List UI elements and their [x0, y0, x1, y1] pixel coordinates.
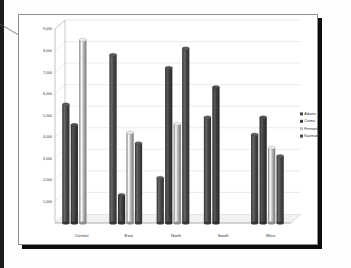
gridline-depth-edge: [55, 85, 65, 94]
y-axis-tick-label: 5,000: [43, 114, 52, 118]
bar-body[interactable]: [204, 117, 211, 223]
y-axis-tick-label: 2,000: [43, 178, 52, 182]
bar-top-cap: [118, 193, 125, 196]
legend-label[interactable]: Kazmarek: [304, 134, 319, 138]
bar-body[interactable]: [79, 40, 86, 223]
bar-top-cap: [79, 38, 86, 41]
legend-swatch: [300, 120, 303, 123]
bar[interactable]: [268, 146, 275, 225]
bar[interactable]: [174, 122, 181, 224]
bar[interactable]: [135, 142, 142, 225]
bar-bottom-cap: [204, 221, 211, 224]
y-axis-tick-label: 3,000: [43, 157, 52, 161]
bar-top-cap: [251, 133, 258, 136]
bar[interactable]: [165, 66, 172, 224]
y-axis-top-edge: [55, 20, 65, 29]
chart-panel[interactable]: 1,0002,0003,0004,0005,0006,0007,0008,000…: [18, 14, 318, 245]
bar-bottom-cap: [118, 221, 125, 224]
legend-label[interactable]: Fernandez: [304, 127, 319, 131]
bar-body[interactable]: [260, 117, 267, 223]
bar-body[interactable]: [118, 195, 125, 223]
bar-top-cap: [212, 86, 219, 89]
desktop-background: 1,0002,0003,0004,0005,0006,0007,0008,000…: [0, 0, 351, 268]
bar-body[interactable]: [268, 148, 275, 223]
bar-top-cap: [165, 66, 172, 69]
bar-top-cap: [277, 155, 284, 158]
bar-bottom-cap: [135, 221, 142, 224]
bar-bottom-cap: [268, 221, 275, 224]
bar-body[interactable]: [212, 87, 219, 223]
bar-body[interactable]: [71, 125, 78, 223]
bar-top-cap: [71, 123, 78, 126]
bar-top-cap: [204, 116, 211, 119]
legend-label[interactable]: Adams: [304, 112, 316, 116]
bar-top-cap: [268, 146, 275, 149]
y-axis-tick-label: 1,000: [43, 200, 52, 204]
bar-bottom-cap: [126, 221, 133, 224]
bar[interactable]: [109, 53, 116, 224]
x-axis-tick-label: West: [266, 233, 276, 238]
bar[interactable]: [182, 47, 189, 225]
y-axis-tick-label: 4,000: [43, 135, 52, 139]
gridline-depth-edge: [55, 42, 65, 51]
bar-top-cap: [182, 47, 189, 50]
bar[interactable]: [62, 103, 69, 225]
bar[interactable]: [212, 86, 219, 225]
bar[interactable]: [251, 133, 258, 225]
bar-bottom-cap: [212, 221, 219, 224]
bar-bottom-cap: [174, 221, 181, 224]
bar-body[interactable]: [182, 48, 189, 223]
bar[interactable]: [71, 123, 78, 224]
bar-top-cap: [157, 176, 164, 179]
bar-top-cap: [62, 103, 69, 106]
bar-body[interactable]: [126, 132, 133, 223]
y-axis-tick-label: 7,000: [43, 71, 52, 75]
x-axis-tick-label: East: [125, 233, 134, 238]
bar[interactable]: [118, 193, 125, 224]
legend-swatch: [300, 112, 303, 115]
bar-bottom-cap: [165, 221, 172, 224]
legend-label[interactable]: Cisma: [304, 119, 316, 123]
bar[interactable]: [157, 176, 164, 224]
bar-bottom-cap: [79, 221, 86, 224]
bar-body[interactable]: [277, 156, 284, 223]
bar-body[interactable]: [174, 124, 181, 223]
legend-swatch: [300, 127, 303, 130]
bar-body[interactable]: [165, 68, 172, 223]
y-axis-tick-label: 6,000: [43, 92, 52, 96]
bar-bottom-cap: [71, 221, 78, 224]
bar-body[interactable]: [62, 104, 69, 223]
bar[interactable]: [204, 116, 211, 225]
bar-body[interactable]: [251, 135, 258, 223]
bar-bottom-cap: [260, 221, 267, 224]
bar-top-cap: [135, 142, 142, 145]
bar-chart-svg[interactable]: 1,0002,0003,0004,0005,0006,0007,0008,000…: [19, 15, 319, 246]
bar-top-cap: [260, 116, 267, 119]
bar-top-cap: [174, 122, 181, 125]
y-axis-tick-label: 8,000: [43, 49, 52, 53]
left-edge-strip: [0, 0, 4, 268]
bar-bottom-cap: [62, 221, 69, 224]
y-axis-tick-label: 9,000: [43, 27, 52, 31]
bar-body[interactable]: [157, 178, 164, 223]
bar-body[interactable]: [135, 143, 142, 223]
x-axis-tick-label: Central: [75, 233, 89, 238]
bar[interactable]: [260, 116, 267, 225]
gridline-depth-edge: [55, 63, 65, 72]
bar-bottom-cap: [182, 221, 189, 224]
plot-area[interactable]: 1,0002,0003,0004,0005,0006,0007,0008,000…: [19, 15, 319, 246]
x-axis-tick-label: South: [218, 233, 230, 238]
bar[interactable]: [277, 155, 284, 225]
bar[interactable]: [79, 38, 86, 224]
bar-bottom-cap: [157, 221, 164, 224]
bar[interactable]: [126, 131, 133, 225]
bar-body[interactable]: [109, 55, 116, 223]
bar-bottom-cap: [277, 221, 284, 224]
legend-swatch: [300, 135, 303, 138]
bar-bottom-cap: [251, 221, 258, 224]
x-axis-tick-label: North: [171, 233, 182, 238]
bar-top-cap: [126, 131, 133, 134]
bar-bottom-cap: [109, 221, 116, 224]
bar-top-cap: [109, 53, 116, 56]
